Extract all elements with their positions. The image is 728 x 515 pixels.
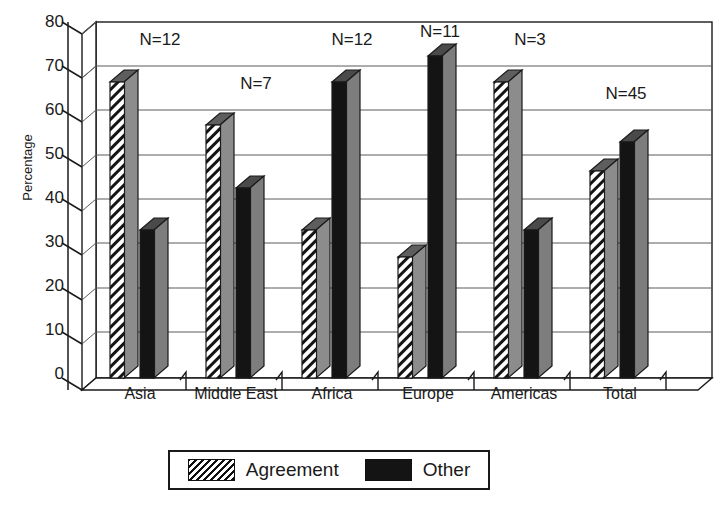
x-label-europe: Europe (402, 384, 454, 404)
x-label-middle-east: Middle East (194, 384, 278, 404)
n-annotation-americas: N=3 (514, 30, 546, 49)
n-annotation-labels: N=12 N=7 N=12 N=11 N=3 N=45 (0, 0, 728, 400)
x-label-americas: Americas (491, 384, 558, 404)
x-label-asia: Asia (124, 384, 155, 404)
legend-entry-other[interactable]: Other (365, 459, 471, 481)
legend-label-other: Other (423, 460, 471, 480)
n-annotation-europe: N=11 (420, 22, 460, 41)
n-annotation-total: N=45 (605, 84, 646, 103)
n-annotation-africa: N=12 (331, 30, 372, 49)
bar-chart: Percentage 80 70 60 50 40 30 20 10 0 (0, 0, 728, 515)
n-annotation-middle-east: N=7 (240, 74, 272, 93)
legend: Agreement Other (168, 450, 490, 490)
n-annotation-asia: N=12 (139, 30, 180, 49)
x-label-total: Total (603, 384, 637, 404)
legend-entry-agreement[interactable]: Agreement (188, 459, 339, 481)
legend-swatch-agreement-icon (188, 459, 235, 481)
x-axis-labels: Asia Middle East Africa Europe Americas … (0, 384, 728, 408)
x-label-africa: Africa (312, 384, 353, 404)
legend-label-agreement: Agreement (246, 460, 339, 480)
legend-swatch-other-icon (365, 459, 412, 481)
